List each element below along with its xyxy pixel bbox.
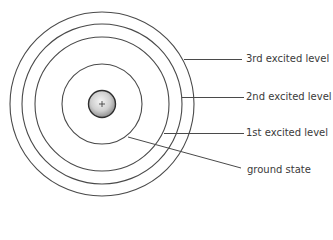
leader-line-ground xyxy=(128,137,241,168)
label-third-excited: 3rd excited level xyxy=(246,53,329,65)
nucleus xyxy=(89,91,116,118)
label-second-excited: 2nd excited level xyxy=(246,91,332,103)
label-first-excited: 1st excited level xyxy=(246,127,328,139)
label-ground-state: ground state xyxy=(247,164,311,176)
